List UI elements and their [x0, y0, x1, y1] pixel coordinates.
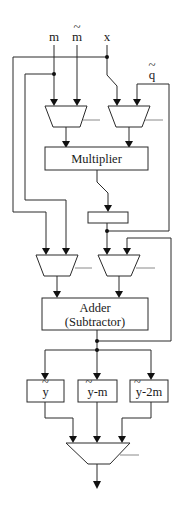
adder-block: Adder (Subtractor) [42, 298, 148, 330]
tilde-mark: ~ [134, 375, 141, 389]
output-arrow [93, 481, 101, 489]
mux-final [66, 443, 139, 464]
datapath-diagram: m m ~ x q ~ [0, 0, 183, 511]
arrows-row2 [42, 248, 131, 255]
adder-label: Adder [79, 301, 111, 315]
mux-4 [98, 255, 155, 276]
pipeline-register [88, 212, 128, 223]
mux-2 [108, 106, 163, 127]
label-x: x [104, 29, 111, 44]
mux-3 [36, 255, 92, 276]
tilde-mark: ~ [42, 375, 49, 389]
tilde-mark: ~ [86, 375, 93, 389]
subtractor-label: (Subtractor) [65, 315, 125, 329]
register-y-minus-2m: y-2m ~ [130, 375, 168, 402]
input-m-tilde: m ~ [72, 19, 82, 44]
junction-dot [95, 348, 99, 352]
arrows-row1 [50, 99, 141, 106]
junction-dot [105, 55, 109, 59]
register-y: y ~ [27, 375, 64, 402]
junction-dot [105, 229, 109, 233]
input-m: m [49, 29, 59, 44]
junction-dot [52, 72, 56, 76]
multiplier-block: Multiplier [45, 147, 148, 170]
input-q-tilde: q ~ [148, 57, 155, 82]
input-x: x [104, 29, 111, 44]
label-m: m [49, 29, 59, 44]
tilde-mark: ~ [148, 57, 155, 72]
tilde-mark: ~ [73, 19, 80, 34]
mux-1 [45, 106, 100, 127]
multiplier-label: Multiplier [71, 152, 123, 166]
junction-dot [95, 339, 99, 343]
